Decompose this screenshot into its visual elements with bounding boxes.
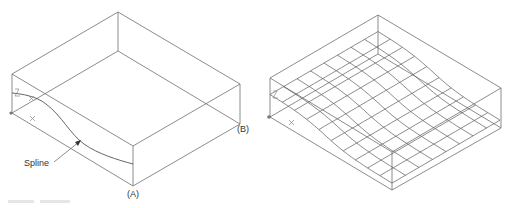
left-box-front-bottom-edges: [12, 113, 240, 186]
spline-leader-line: [54, 142, 79, 162]
z-axis-glyph-icon: [15, 89, 20, 96]
mesh-line-v: [270, 95, 392, 184]
origin-dot-icon: [267, 115, 271, 119]
left-box-back-bottom-edges: [12, 51, 240, 124]
origin-dot-icon: [9, 111, 12, 114]
point-a-label: (A): [127, 189, 139, 199]
spline-label: Spline: [24, 158, 49, 168]
left-box-top-face: [12, 12, 240, 146]
mesh-line-v: [311, 71, 433, 160]
mesh-line-v: [297, 79, 419, 168]
footer-mark: [40, 200, 70, 203]
footer-mark: [8, 200, 34, 203]
point-b-label: (B): [237, 124, 249, 134]
surface-mesh: [270, 32, 500, 184]
figure-canvas: Spline (A) (B): [0, 0, 506, 208]
left-box: Spline (A) (B): [9, 12, 249, 199]
ucs-icon: [9, 89, 35, 121]
mesh-line-v: [378, 32, 500, 121]
ucs-icon-right: [267, 91, 294, 125]
arrowhead-icon: [75, 140, 81, 146]
spline-curve: [12, 93, 133, 164]
mesh-line-v: [365, 39, 487, 128]
mesh-line-v: [324, 63, 446, 152]
right-box: [267, 15, 501, 190]
